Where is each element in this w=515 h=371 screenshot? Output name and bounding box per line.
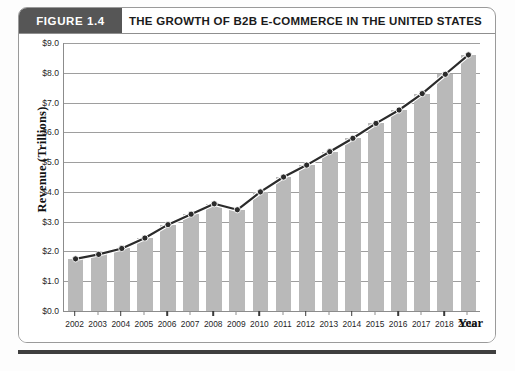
x-tick-label: 2002 <box>65 319 84 329</box>
y-tick-label: $7.0 <box>42 98 59 108</box>
x-tick-label: 2008 <box>204 319 223 329</box>
x-tick <box>444 311 446 316</box>
figure-frame: FIGURE 1.4 THE GROWTH OF B2B E-COMMERCE … <box>18 7 496 343</box>
data-point-marker <box>442 71 448 77</box>
line-halo <box>76 55 469 259</box>
data-point-marker <box>165 222 171 228</box>
y-tick-label: $3.0 <box>42 217 59 227</box>
x-tick-label: 2015 <box>366 319 385 329</box>
data-point-marker <box>119 245 125 251</box>
y-tick-label: $1.0 <box>42 276 59 286</box>
x-tick-label: 2004 <box>111 319 130 329</box>
data-point-marker <box>465 52 471 58</box>
data-point-marker <box>211 201 217 207</box>
data-point-marker <box>373 120 379 126</box>
figure-header: FIGURE 1.4 THE GROWTH OF B2B E-COMMERCE … <box>19 8 495 34</box>
x-tick <box>259 311 261 316</box>
x-tick <box>467 311 468 315</box>
x-tick <box>120 311 122 316</box>
x-tick <box>190 311 191 315</box>
data-point-marker <box>350 135 356 141</box>
data-point-marker <box>419 91 425 97</box>
data-point-marker <box>304 162 310 168</box>
y-tick-label: $5.0 <box>42 157 59 167</box>
y-tick-label: $4.0 <box>42 187 59 197</box>
data-point-marker <box>396 107 402 113</box>
y-tick-label: $0.0 <box>42 306 59 316</box>
x-tick <box>97 311 98 315</box>
x-tick <box>421 311 422 315</box>
x-tick <box>282 311 283 315</box>
data-point-marker <box>327 149 333 155</box>
x-tick-label: 2009 <box>227 319 246 329</box>
x-tick-label: 2018 <box>435 319 454 329</box>
x-tick <box>236 311 237 315</box>
x-tick-label: 2011 <box>274 319 292 329</box>
x-tick-label: 2010 <box>250 319 269 329</box>
data-point-marker <box>280 174 286 180</box>
figure-screenshot: FIGURE 1.4 THE GROWTH OF B2B E-COMMERCE … <box>0 0 515 371</box>
x-tick <box>143 311 144 315</box>
x-tick-label: 2013 <box>319 319 338 329</box>
figure-number-badge: FIGURE 1.4 <box>19 8 122 33</box>
x-tick <box>74 311 76 316</box>
x-tick <box>397 311 399 316</box>
x-tick <box>166 311 168 316</box>
y-tick-label: $2.0 <box>42 246 59 256</box>
plot-region: $0.0$1.0$2.0$3.0$4.0$5.0$6.0$7.0$8.0$9.0 <box>63 43 480 312</box>
x-tick <box>375 311 376 315</box>
data-point-marker <box>96 251 102 257</box>
data-point-marker <box>72 256 78 262</box>
x-tick-label: 2012 <box>296 319 315 329</box>
data-point-marker <box>257 189 263 195</box>
figure-title: THE GROWTH OF B2B E-COMMERCE IN THE UNIT… <box>122 8 495 33</box>
x-tick <box>212 311 214 316</box>
y-tick-label: $8.0 <box>42 68 59 78</box>
x-tick-label: 2007 <box>181 319 200 329</box>
y-tick-label: $6.0 <box>42 127 59 137</box>
x-tick-label: 2016 <box>389 319 408 329</box>
x-axis-labels: 2002200320042005200620072008200920102011… <box>63 319 479 333</box>
x-tick-label: 2014 <box>343 319 362 329</box>
line-series-overlay <box>64 43 480 311</box>
x-tick-label: 2006 <box>158 319 177 329</box>
x-tick-label: 2003 <box>88 319 107 329</box>
x-tick <box>305 311 307 316</box>
x-axis-ticks <box>63 311 479 319</box>
data-point-marker <box>142 235 148 241</box>
data-point-marker <box>188 211 194 217</box>
x-tick <box>328 311 329 315</box>
x-tick-label: 2005 <box>135 319 154 329</box>
chart-area: Revenue (Trillions) $0.0$1.0$2.0$3.0$4.0… <box>19 34 496 343</box>
line-path <box>76 55 469 259</box>
data-point-marker <box>234 207 240 213</box>
x-tick <box>351 311 353 316</box>
x-tick-label: 2017 <box>412 319 431 329</box>
y-tick-label: $9.0 <box>42 38 59 48</box>
bottom-rule <box>18 350 496 354</box>
x-axis-title: Year <box>458 316 483 331</box>
